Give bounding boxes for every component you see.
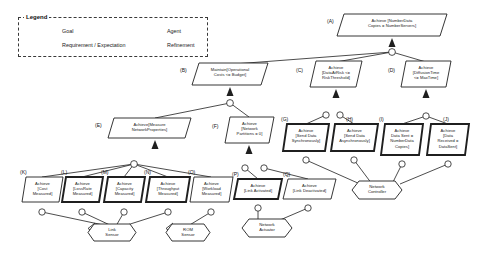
node-D-shape bbox=[401, 61, 451, 87]
node-C-shape bbox=[310, 61, 362, 87]
node-M-shape bbox=[104, 177, 145, 202]
node-I-tag: (I) bbox=[379, 116, 384, 122]
node-E-shape bbox=[108, 118, 191, 138]
node-K-tag: (K) bbox=[20, 169, 27, 175]
node-I-shape bbox=[381, 124, 423, 155]
node-K-shape bbox=[22, 177, 63, 202]
node-J-tag: (J) bbox=[443, 116, 449, 122]
node-L-shape bbox=[62, 177, 103, 202]
node-C-tag: (C) bbox=[296, 67, 303, 73]
diagram-canvas: Legend Goal Requirement / Expectation Ag… bbox=[0, 0, 477, 257]
node-F-tag: (F) bbox=[212, 123, 218, 129]
node-A-tag: (A) bbox=[327, 18, 334, 24]
legend-panel bbox=[18, 17, 208, 57]
node-Q-shape bbox=[283, 179, 336, 199]
legend-label-refinement: Refinement bbox=[167, 42, 195, 48]
agent-rom-sensor-label: ROM Sensor bbox=[172, 227, 204, 238]
node-N-tag: (N) bbox=[144, 169, 151, 175]
node-F-shape bbox=[225, 117, 274, 143]
node-O-tag: (O) bbox=[188, 169, 195, 175]
node-H-shape bbox=[331, 124, 378, 151]
legend-label-goal: Goal bbox=[62, 28, 73, 34]
node-G-shape bbox=[283, 124, 329, 151]
node-G-tag: (G) bbox=[281, 116, 288, 122]
node-O-shape bbox=[190, 177, 233, 202]
agent-network-controller-label: Network Controller bbox=[359, 184, 395, 195]
legend-label-agent: Agent bbox=[167, 28, 181, 34]
node-H-tag: (H) bbox=[346, 116, 353, 122]
node-P-shape bbox=[234, 179, 282, 199]
node-E-tag: (E) bbox=[95, 122, 102, 128]
node-M-tag: (M) bbox=[101, 169, 109, 175]
node-B-shape bbox=[192, 63, 268, 85]
node-L-tag: (L) bbox=[61, 169, 67, 175]
node-J-shape bbox=[427, 124, 469, 155]
node-B-tag: (B) bbox=[180, 67, 187, 73]
node-D-tag: (D) bbox=[388, 67, 395, 73]
agent-link-sensor-label: Link Sensor bbox=[94, 227, 130, 238]
node-N-shape bbox=[146, 177, 190, 202]
legend-title: Legend bbox=[24, 14, 49, 20]
legend-label-requirement: Requirement / Expectation bbox=[62, 42, 126, 48]
node-Q-tag: (Q) bbox=[283, 171, 290, 177]
node-A-shape bbox=[337, 14, 447, 36]
agent-network-actuator-label: Network Actuator bbox=[249, 222, 285, 233]
node-P-tag: (P) bbox=[232, 171, 239, 177]
